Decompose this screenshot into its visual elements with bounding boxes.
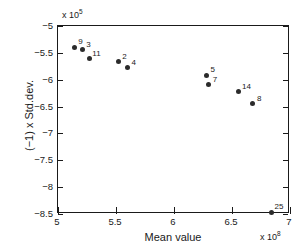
y-axis-tick-mark: [283, 26, 288, 27]
y-axis-tick-label: −6: [0, 75, 53, 85]
data-point: [125, 65, 130, 70]
y-axis-exponent-power: 5: [79, 8, 83, 15]
x-axis-title: Mean value: [57, 232, 289, 243]
plot-area: 9311245714825: [57, 25, 289, 213]
data-point-label: 2: [122, 53, 126, 61]
scatter-plot-figure: x 105 x 108 Mean value (−1) x Std.dev. −…: [0, 0, 306, 252]
y-axis-tick-mark: [283, 187, 288, 188]
y-axis-tick-mark: [58, 214, 63, 215]
x-axis-tick-label: 6: [170, 217, 175, 227]
y-axis-tick-mark: [58, 80, 63, 81]
y-axis-tick-label: −5: [0, 21, 53, 31]
data-point: [87, 56, 92, 61]
data-point: [204, 73, 209, 78]
y-axis-tick-mark: [283, 133, 288, 134]
data-point-label: 5: [210, 66, 214, 74]
x-axis-tick-mark: [174, 207, 175, 212]
data-point: [269, 210, 274, 215]
x-axis-tick-label: 7: [286, 217, 291, 227]
y-axis-tick-mark: [58, 133, 63, 134]
data-point-label: 7: [213, 76, 217, 84]
y-axis-tick-mark: [58, 187, 63, 188]
data-point: [116, 59, 121, 64]
data-point: [72, 45, 77, 50]
data-point-label: 11: [92, 50, 100, 58]
data-point: [206, 82, 211, 87]
y-axis-tick-label: −6.5: [0, 102, 53, 112]
data-point-label: 9: [78, 38, 82, 46]
x-axis-tick-mark: [232, 207, 233, 212]
y-axis-tick-label: −7.5: [0, 155, 53, 165]
x-axis-tick-mark: [290, 207, 291, 212]
y-axis-exponent-base: x 10: [62, 10, 79, 20]
y-axis-tick-mark: [58, 160, 63, 161]
y-axis-tick-mark: [283, 214, 288, 215]
y-axis-tick-mark: [283, 160, 288, 161]
data-point-label: 3: [86, 41, 90, 49]
x-axis-tick-label: 6.5: [224, 217, 237, 227]
y-axis-tick-mark: [58, 26, 63, 27]
x-axis-tick-mark: [58, 207, 59, 212]
data-point-label: 25: [274, 203, 283, 211]
y-axis-tick-mark: [283, 80, 288, 81]
y-axis-tick-label: −7: [0, 128, 53, 138]
x-axis-tick-label: 5.5: [108, 217, 121, 227]
data-point: [80, 47, 85, 52]
data-point-label: 8: [257, 95, 261, 103]
x-axis-tick-label: 5: [54, 217, 59, 227]
y-axis-tick-mark: [58, 53, 63, 54]
data-point: [236, 89, 241, 94]
y-axis-tick-mark: [58, 107, 63, 108]
y-axis-tick-label: −8: [0, 182, 53, 192]
y-axis-exponent: x 105: [62, 9, 83, 20]
x-axis-tick-mark: [116, 207, 117, 212]
data-point-label: 4: [132, 59, 136, 67]
y-axis-tick-mark: [283, 53, 288, 54]
y-axis-tick-label: −5.5: [0, 48, 53, 58]
data-point: [250, 101, 255, 106]
y-axis-tick-mark: [283, 107, 288, 108]
y-axis-tick-label: −8.5: [0, 209, 53, 219]
data-point-label: 14: [242, 83, 251, 91]
